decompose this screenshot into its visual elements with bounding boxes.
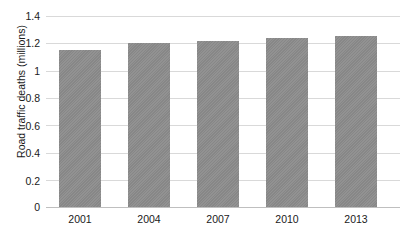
bar-2004 (128, 43, 170, 207)
y-tick-label: 0 (6, 202, 40, 213)
bar-2001 (59, 50, 101, 207)
x-tick-label-2010: 2010 (252, 212, 322, 226)
y-axis-title: Road traffic deaths (millions) (14, 0, 28, 195)
x-tick-label-2007: 2007 (183, 212, 253, 226)
bar-2013 (335, 36, 377, 207)
x-tick-label-2004: 2004 (114, 212, 184, 226)
bar-2007 (197, 41, 239, 207)
plot-area (46, 10, 400, 207)
gridline-1.4 (46, 16, 400, 17)
x-axis-tick-labels: 2001 2004 2007 2010 2013 (46, 212, 400, 228)
axis-baseline (46, 207, 400, 208)
bar-2010 (266, 38, 308, 207)
bar-chart: Road traffic deaths (millions) 1.4 1.2 1… (0, 0, 410, 236)
x-tick-label-2013: 2013 (321, 212, 391, 226)
x-tick-label-2001: 2001 (45, 212, 115, 226)
